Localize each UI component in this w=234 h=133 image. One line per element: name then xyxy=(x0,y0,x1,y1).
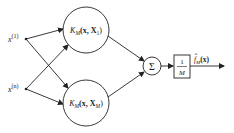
edge-k1-sum xyxy=(108,36,144,61)
input-label-n: x(n) xyxy=(7,83,19,94)
scale-numerator: 1 xyxy=(180,58,184,66)
edge-xn-kM xyxy=(26,89,63,104)
edge-xn-k1 xyxy=(26,45,68,89)
input-label-1: x(1) xyxy=(7,33,19,44)
edge-x1-k1 xyxy=(26,29,63,39)
edge-kM-sum xyxy=(108,72,144,97)
kernel-network-diagram: x(1) x(n) KM(x, X1) KM(x, XM) Σ 1 M f̂M(… xyxy=(0,0,234,133)
sum-symbol: Σ xyxy=(149,61,155,72)
output-label: f̂M(x) xyxy=(194,53,210,65)
edge-x1-kM xyxy=(26,39,68,88)
scale-denominator: M xyxy=(178,69,186,77)
